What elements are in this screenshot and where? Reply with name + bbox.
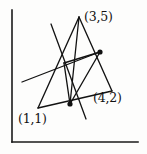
figure-canvas bbox=[0, 0, 147, 154]
midpoint-upper-right-dot bbox=[97, 49, 102, 54]
vertex-label-right: (4,2) bbox=[93, 92, 122, 105]
vertex-label-apex: (3,5) bbox=[84, 11, 113, 24]
vertex-label-origin: (1,1) bbox=[18, 113, 47, 126]
geometry-figure: (3,5) (4,2) (1,1) bbox=[0, 0, 147, 154]
midpoint-lower-dot bbox=[67, 101, 72, 106]
